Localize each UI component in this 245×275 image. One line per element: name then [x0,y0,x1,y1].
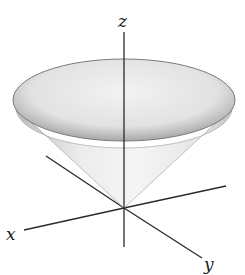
y-axis-label: y [203,254,214,274]
x-axis-label: x [6,224,16,244]
y-axis [124,208,202,258]
x-axis [24,208,124,230]
cone-diagram: z x y [0,0,245,275]
z-axis-label: z [117,11,128,31]
